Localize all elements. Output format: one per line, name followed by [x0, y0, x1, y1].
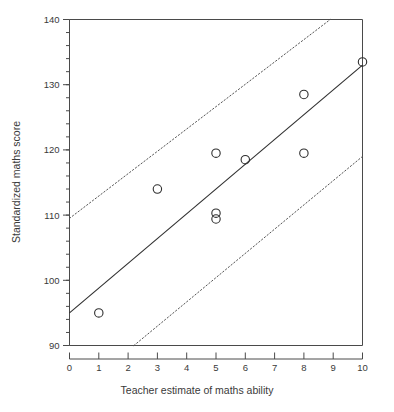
x-tick-label: 9 — [331, 362, 336, 373]
x-tick-label: 5 — [213, 362, 218, 373]
data-point-marker — [212, 215, 220, 223]
y-tick-label: 90 — [49, 340, 60, 351]
x-tick-label: 0 — [67, 362, 72, 373]
x-tick-label: 1 — [96, 362, 101, 373]
upper-confidence-band — [70, 20, 331, 219]
y-tick-label: 140 — [44, 14, 60, 25]
x-tick-label: 7 — [272, 362, 277, 373]
y-tick-label: 120 — [44, 144, 60, 155]
data-point-marker — [153, 185, 161, 193]
lower-confidence-band — [134, 156, 363, 345]
y-tick-label: 100 — [44, 275, 60, 286]
y-tick-label: 130 — [44, 79, 60, 90]
regression-line — [70, 65, 363, 313]
x-tick-label: 4 — [184, 362, 189, 373]
plot-frame — [70, 20, 363, 346]
y-axis-tick-labels: 90100110120130140 — [44, 14, 60, 351]
data-point-marker — [300, 149, 308, 157]
x-axis-major-ticks — [70, 353, 363, 360]
x-tick-label: 6 — [243, 362, 248, 373]
y-tick-label: 110 — [44, 210, 59, 221]
x-tick-label: 2 — [125, 362, 130, 373]
x-axis-title: Teacher estimate of maths ability — [121, 384, 275, 396]
x-tick-label: 10 — [357, 362, 368, 373]
data-point-marker — [300, 90, 308, 98]
data-point-marker — [95, 309, 103, 317]
data-point-marker — [212, 149, 220, 157]
scatter-plot-figure: 90100110120130140 012345678910 Teacher e… — [0, 0, 394, 412]
y-axis-minor-ticks — [66, 20, 70, 346]
x-tick-label: 3 — [155, 362, 160, 373]
x-tick-label: 8 — [301, 362, 306, 373]
plot-border — [70, 20, 363, 346]
plot-canvas: 90100110120130140 012345678910 Teacher e… — [0, 0, 394, 412]
data-point-marker — [241, 155, 249, 163]
y-axis-title: Standardized maths score — [10, 121, 22, 243]
regression-line — [70, 65, 363, 313]
x-axis-tick-labels: 012345678910 — [67, 362, 368, 373]
y-axis-major-ticks — [63, 20, 70, 346]
confidence-band-lines — [70, 20, 363, 346]
